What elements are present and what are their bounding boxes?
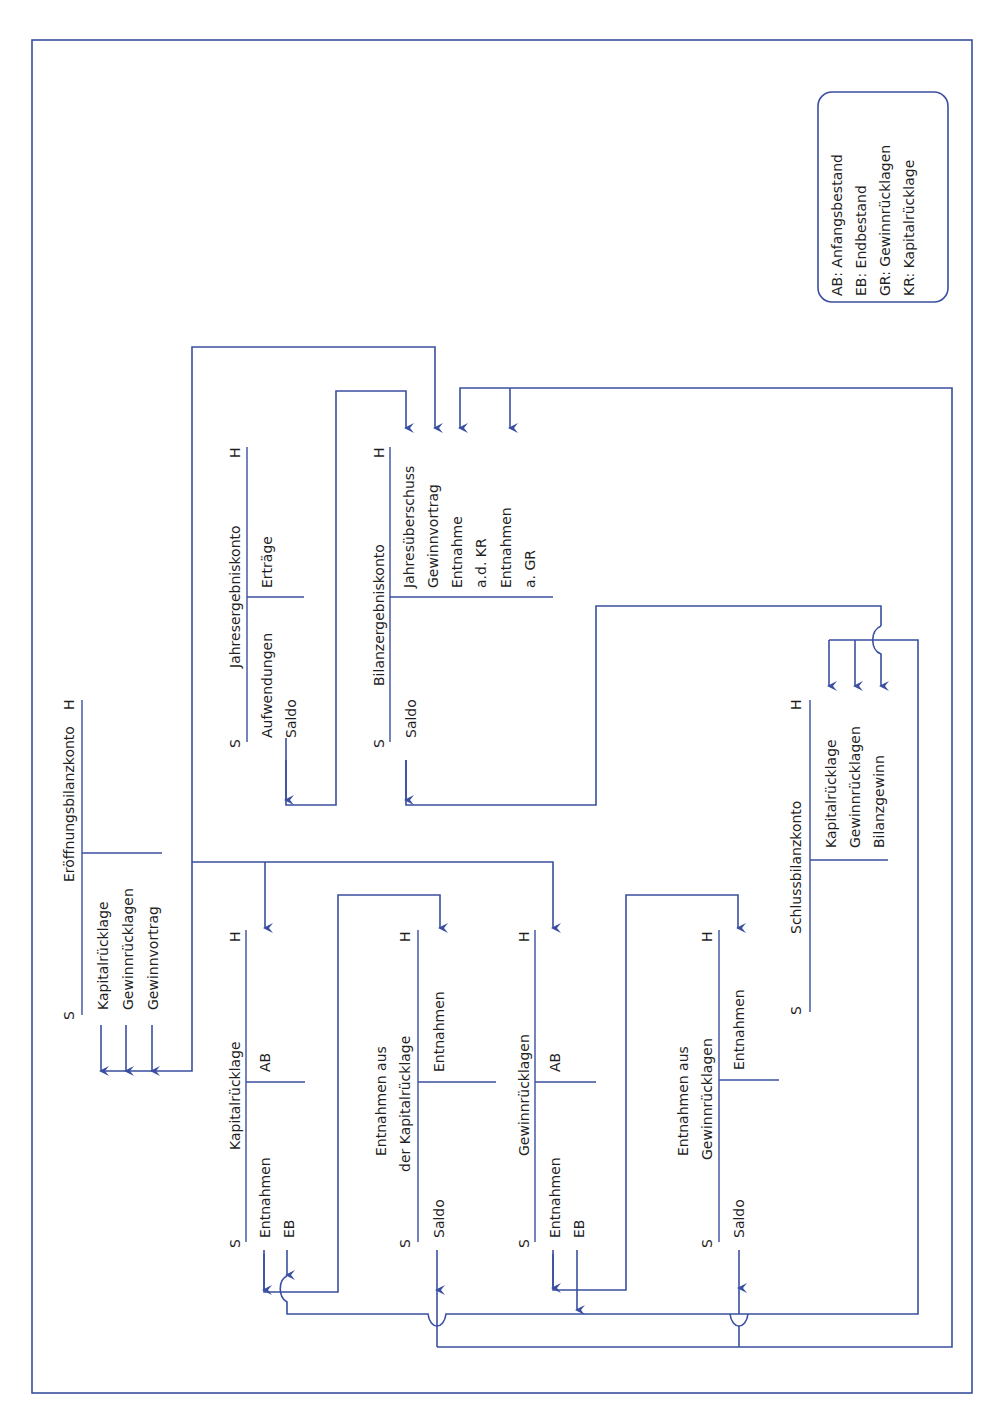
account-schlussbilanzkonto: S Schlussbilanzkonto H Kapitalrücklage G…: [788, 699, 888, 1015]
account-title: Schlussbilanzkonto: [788, 801, 804, 934]
entry-gewinnruecklagen: Gewinnrücklagen: [847, 726, 863, 848]
account-entnahmen-gewinnruecklagen: S Entnahmen aus Gewinnrücklagen H Saldo …: [675, 930, 779, 1248]
account-eroeffnungsbilanzkonto: S Eröffnungsbilanzkonto H Kapitalrücklag…: [61, 699, 162, 1020]
entry-ertraege: Erträge: [259, 536, 275, 588]
haben-label: H: [371, 447, 387, 458]
entry-agr: a. GR: [522, 550, 538, 588]
entry-gewinnruecklagen: Gewinnrücklagen: [120, 888, 136, 1010]
entry-bilanzgewinn: Bilanzgewinn: [871, 755, 887, 848]
entry-kapitalruecklage: Kapitalrücklage: [823, 739, 839, 848]
entry-gewinnvortrag: Gewinnvortrag: [425, 484, 441, 588]
entry-eb: EB: [281, 1220, 297, 1238]
legend-item-ab: AB: Anfangsbestand: [829, 154, 845, 296]
soll-label: S: [788, 1006, 804, 1015]
soll-label: S: [371, 739, 387, 748]
account-title-line-2: der Kapitalrücklage: [397, 1036, 413, 1172]
arrow-sbk-bilanzgewinn: [873, 626, 881, 686]
haben-label: H: [699, 931, 715, 942]
legend-item-gr: GR: Gewinnrücklagen: [877, 145, 893, 296]
entry-saldo: Saldo: [431, 1199, 447, 1238]
account-kapitalruecklage: S Kapitalrücklage H Entnahmen EB AB: [227, 930, 305, 1248]
entry-entnahmen: Entnahmen: [257, 1157, 273, 1238]
booking-flow-diagram: AB: Anfangsbestand EB: Endbestand GR: Ge…: [0, 0, 995, 1415]
entry-kapitalruecklage: Kapitalrücklage: [95, 901, 111, 1010]
soll-label: S: [227, 739, 243, 748]
soll-label: S: [699, 1239, 715, 1248]
account-gewinnruecklagen: S Gewinnrücklagen H Entnahmen EB AB: [516, 930, 596, 1248]
entry-saldo: Saldo: [731, 1199, 747, 1238]
haben-label: H: [61, 699, 77, 710]
account-title: Jahresergebniskonto: [227, 525, 243, 669]
account-bilanzergebniskonto: S Bilanzergebniskonto H Saldo Jahresüber…: [371, 447, 553, 748]
hop-egr: [730, 1314, 748, 1326]
legend: AB: Anfangsbestand EB: Endbestand GR: Ge…: [818, 92, 948, 302]
entry-jahresueberschuss: Jahresüberschuss: [401, 466, 417, 589]
soll-label: S: [227, 1239, 243, 1248]
line-entnahmen-to-be: [437, 388, 952, 1347]
haben-label: H: [516, 931, 532, 942]
account-title: Kapitalrücklage: [227, 1041, 243, 1150]
entry-adkr: a.d. KR: [473, 538, 489, 588]
entry-entnahmen: Entnahmen: [731, 989, 747, 1070]
entry-ab: AB: [547, 1053, 563, 1072]
haben-label: H: [788, 699, 804, 710]
account-title-line-1: Entnahmen aus: [373, 1046, 389, 1156]
entry-aufwendungen: Aufwendungen: [259, 633, 275, 738]
account-title-line-1: Entnahmen aus: [675, 1046, 691, 1156]
legend-item-kr: KR: Kapitalrücklage: [901, 160, 917, 296]
entry-saldo: Saldo: [403, 699, 419, 738]
legend-item-eb: EB: Endbestand: [853, 185, 869, 296]
haben-label: H: [397, 931, 413, 942]
haben-label: H: [227, 447, 243, 458]
entry-entnahme: Entnahme: [449, 516, 465, 588]
entry-entnahmen: Entnahmen: [547, 1157, 563, 1238]
soll-label: S: [516, 1239, 532, 1248]
account-title: Eröffnungsbilanzkonto: [61, 726, 77, 882]
entry-gewinnvortrag: Gewinnvortrag: [145, 906, 161, 1010]
account-jahresergebniskonto: S Jahresergebniskonto H Aufwendungen Sal…: [227, 447, 304, 748]
soll-label: S: [397, 1239, 413, 1248]
line-je-saldo-to-be-jahresueberschuss: [286, 391, 406, 805]
entry-entnahmen: Entnahmen: [431, 991, 447, 1072]
entry-saldo: Saldo: [283, 699, 299, 738]
soll-label: S: [61, 1011, 77, 1020]
entry-entnahmen: Entnahmen: [498, 507, 514, 588]
account-title: Bilanzergebniskonto: [371, 544, 387, 686]
account-title-line-2: Gewinnrücklagen: [699, 1038, 715, 1160]
entry-ab: AB: [257, 1053, 273, 1072]
account-title: Gewinnrücklagen: [516, 1034, 532, 1156]
entry-eb: EB: [571, 1220, 587, 1238]
haben-label: H: [227, 931, 243, 942]
account-entnahmen-kapitalruecklage: S Entnahmen aus der Kapitalrücklage H Sa…: [373, 930, 496, 1248]
